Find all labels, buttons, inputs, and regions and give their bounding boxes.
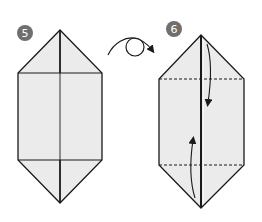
step-6-figure xyxy=(159,35,244,208)
step-6-number: 6 xyxy=(171,23,178,36)
step-6-badge: 6 xyxy=(166,21,182,37)
step-5-figure xyxy=(18,30,102,203)
origami-diagram: 5 6 xyxy=(0,0,262,222)
step-5-number: 5 xyxy=(22,27,29,40)
turn-over-arrow-icon xyxy=(108,38,152,56)
step-5-badge: 5 xyxy=(17,25,33,41)
